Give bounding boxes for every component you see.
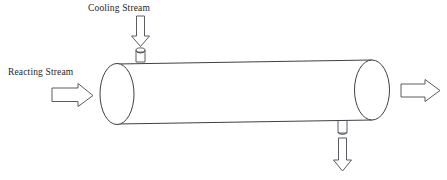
cooling-stream-label: Cooling Stream (88, 3, 150, 13)
cooling-stream-inlet-arrow-shape (132, 16, 150, 47)
vessel-top-edge (117, 60, 372, 64)
cooling-outlet-nozzle-barrel (338, 121, 347, 133)
cooling-stream-outlet-arrow-shape (334, 138, 352, 171)
cooling-stream-inlet-arrow (132, 16, 150, 47)
process-flow-diagram: Cooling Stream Reacting Stream (0, 0, 447, 180)
reacting-stream-inlet-arrow-shape (52, 84, 93, 107)
vessel-left-end-cap (100, 64, 134, 125)
cooling-outlet-nozzle (338, 121, 347, 134)
cooling-inlet-nozzle-rim (136, 48, 145, 52)
vessel-bottom-edge (117, 120, 372, 124)
diagram-canvas (0, 0, 447, 180)
reactor-vessel (100, 60, 390, 125)
cooling-stream-outlet-arrow (334, 138, 352, 171)
cooling-inlet-nozzle (136, 48, 145, 62)
vessel-right-end-cap (355, 60, 390, 120)
reacting-stream-outlet-arrow-shape (401, 80, 440, 102)
reacting-stream-outlet-arrow (401, 80, 440, 102)
reacting-stream-label: Reacting Stream (8, 67, 73, 77)
reacting-stream-inlet-arrow (52, 84, 93, 107)
